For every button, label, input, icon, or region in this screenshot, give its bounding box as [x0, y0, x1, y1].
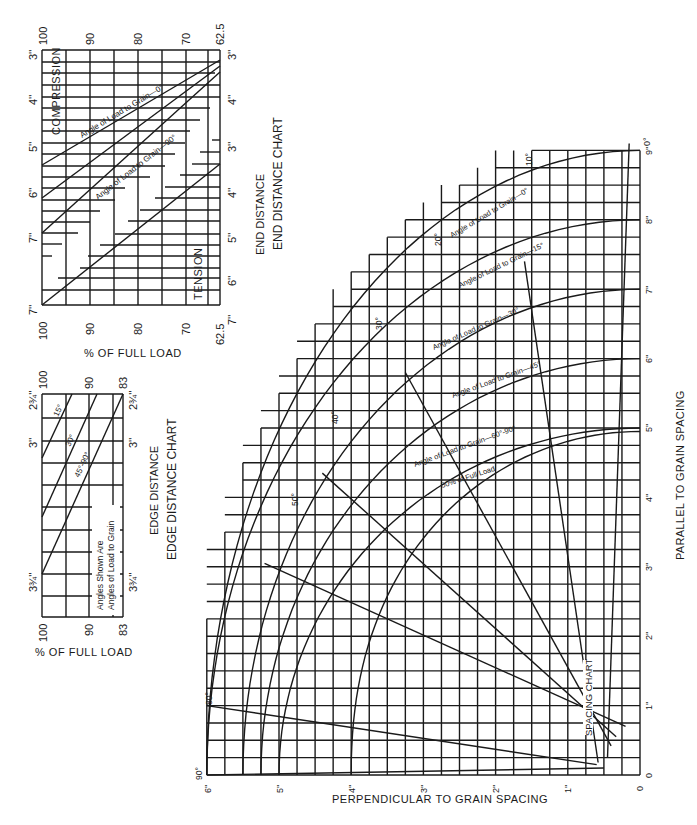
angle-30-label: 30°	[374, 317, 384, 330]
edge-right-3in: 3''	[127, 438, 139, 448]
edge-left-2-75in: 2¾''	[27, 391, 39, 411]
edge-distance-chart: 100 90 83 100 90 83 2¾'' 3'' 3¾'' 2¾'' 3…	[27, 371, 179, 658]
angle-90-label: 90°	[194, 767, 204, 780]
edge-pct-83-bottom: 83	[117, 624, 129, 636]
edge-xlabel: % OF FULL LOAD	[35, 646, 133, 658]
par-4: 4''	[644, 493, 654, 502]
angle-40-label: 40°	[330, 411, 340, 424]
perp-5: 5''	[275, 784, 285, 793]
edge-15deg-label: 15°	[52, 403, 65, 418]
end-pct-70-bottom-label: 70	[180, 323, 192, 335]
edge-pct-90-bottom: 90	[83, 624, 95, 636]
par-5: 5''	[644, 423, 654, 432]
end-pct-80-bottom-label: 80	[132, 323, 144, 335]
end-distance-title: END DISTANCE CHART	[271, 116, 285, 250]
edge-left-3in: 3''	[27, 438, 39, 448]
end-left-4in: 4''	[27, 95, 39, 105]
par-3: 3''	[644, 562, 654, 571]
end-pct-62-5-label: 62.5	[214, 24, 226, 45]
end-pct-90-bottom-label: 90	[84, 323, 96, 335]
compression-label: COMPRESSION	[50, 47, 62, 135]
end-right-4in-tension: 4''	[226, 188, 238, 198]
edge-distance-subtitle: EDGE DISTANCE	[148, 446, 160, 535]
par-7: 7''	[644, 285, 654, 294]
end-left-7in-bottom: 7''	[27, 305, 39, 315]
chart-canvas: 100 90 80 70 62.5 100 90 80 70 62.5 3'' …	[0, 0, 697, 825]
end-pct-62-5-bottom-label: 62.5	[214, 324, 226, 345]
angle-80-label: 80°	[204, 692, 214, 705]
tension-label: TENSION	[192, 248, 204, 300]
angle-50-label: 50°	[290, 493, 300, 506]
par-6: 6''	[644, 354, 654, 363]
end-pct-70-label: 70	[180, 33, 192, 45]
end-pct-90-label: 90	[84, 33, 96, 45]
perp-6: 6''	[203, 784, 213, 793]
spacing-xlabel: PERPENDICULAR TO GRAIN SPACING	[332, 793, 548, 805]
edge-pct-83-top: 83	[117, 377, 129, 389]
perp-0: 0	[635, 786, 645, 791]
par-1: 1''	[644, 701, 654, 710]
spacing-curve-30-label: Angle of Load to Grain—30°	[431, 305, 520, 351]
end-pct-100-bottom-label: 100	[37, 322, 49, 340]
edge-left-3-75in: 3¾''	[27, 573, 39, 593]
end-right-6in-tension: 6''	[226, 276, 238, 286]
angle-20-label: 20°	[433, 233, 443, 246]
perp-4: 4''	[347, 784, 357, 793]
angle-0-label: 0°	[642, 137, 652, 146]
end-left-3in: 3''	[27, 50, 39, 60]
spacing-chart-title: SPACING CHART	[583, 659, 594, 736]
edge-right-3-75in: 3¾''	[127, 573, 139, 593]
end-right-5in-tension: 5''	[226, 233, 238, 243]
edge-pct-100-bottom: 100	[37, 624, 49, 642]
spacing-ylabel: PARALLEL TO GRAIN SPACING	[674, 391, 686, 561]
par-0: 0	[644, 773, 654, 778]
end-right-3in: 3''	[226, 50, 238, 60]
perp-3: 3''	[419, 784, 429, 793]
end-pct-100-label: 100	[37, 27, 49, 45]
end-left-6in: 6''	[27, 188, 39, 198]
end-pct-80-label: 80	[132, 33, 144, 45]
edge-pct-100-top: 100	[37, 371, 49, 389]
end-right-7in-tension: 7''	[226, 315, 238, 325]
end-right-3in-tension: 3''	[226, 142, 238, 152]
angle-10-label: 10°	[524, 153, 534, 166]
end-left-7in: 7''	[27, 233, 39, 243]
perp-1: 1''	[563, 784, 573, 793]
spacing-curve-0-label: Angle of Load to Grain—0°	[448, 186, 530, 240]
edge-right-2-75in: 2¾''	[127, 391, 139, 411]
par-9: 9''	[644, 146, 654, 155]
par-8: 8''	[644, 215, 654, 224]
end-distance-subtitle: END DISTANCE	[254, 174, 266, 255]
edge-distance-title: EDGE DISTANCE CHART	[165, 418, 179, 560]
edge-pct-90-top: 90	[83, 377, 95, 389]
end-right-4in: 4''	[226, 95, 238, 105]
end-distance-chart: 100 90 80 70 62.5 100 90 80 70 62.5 3'' …	[27, 24, 285, 359]
edge-note-line2: Angles of Load to Grain	[106, 520, 116, 610]
perp-2: 2''	[491, 784, 501, 793]
par-2: 2''	[644, 631, 654, 640]
end-left-5in: 5''	[27, 142, 39, 152]
spacing-chart: 0 1'' 2'' 3'' 4'' 5'' 6'' 7'' 8'' 9'' 0°…	[194, 137, 686, 805]
end-xlabel: % OF FULL LOAD	[84, 347, 182, 359]
edge-note-line1: Angles Shown Are	[95, 540, 105, 610]
